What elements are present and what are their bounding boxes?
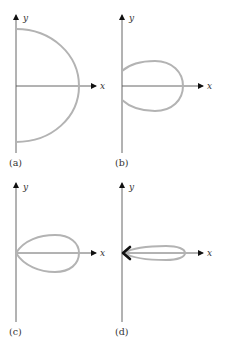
panel-label: (b) bbox=[115, 157, 129, 168]
x-axis-label: x bbox=[207, 248, 212, 258]
x-axis-label: x bbox=[100, 81, 105, 91]
polar-curves-figure: y x (a) y x (b) y x (c) y x (d) bbox=[0, 0, 226, 357]
y-axis-label: y bbox=[22, 13, 29, 23]
y-axis-label: y bbox=[22, 182, 29, 192]
panel-b: y x (b) bbox=[115, 13, 212, 168]
x-axis-label: x bbox=[100, 248, 105, 258]
y-axis-label: y bbox=[128, 182, 135, 192]
panel-label: (d) bbox=[115, 326, 129, 337]
panel-label: (c) bbox=[9, 326, 22, 337]
semicircle-curve bbox=[16, 29, 79, 142]
teardrop-loop-curve bbox=[16, 235, 79, 272]
panel-c: y x (c) bbox=[9, 182, 105, 337]
panel-a: y x (a) bbox=[9, 13, 105, 168]
panel-label: (a) bbox=[9, 157, 22, 168]
panel-d: y x (d) bbox=[115, 182, 212, 337]
y-axis-label: y bbox=[128, 13, 135, 23]
x-axis-label: x bbox=[207, 81, 212, 91]
